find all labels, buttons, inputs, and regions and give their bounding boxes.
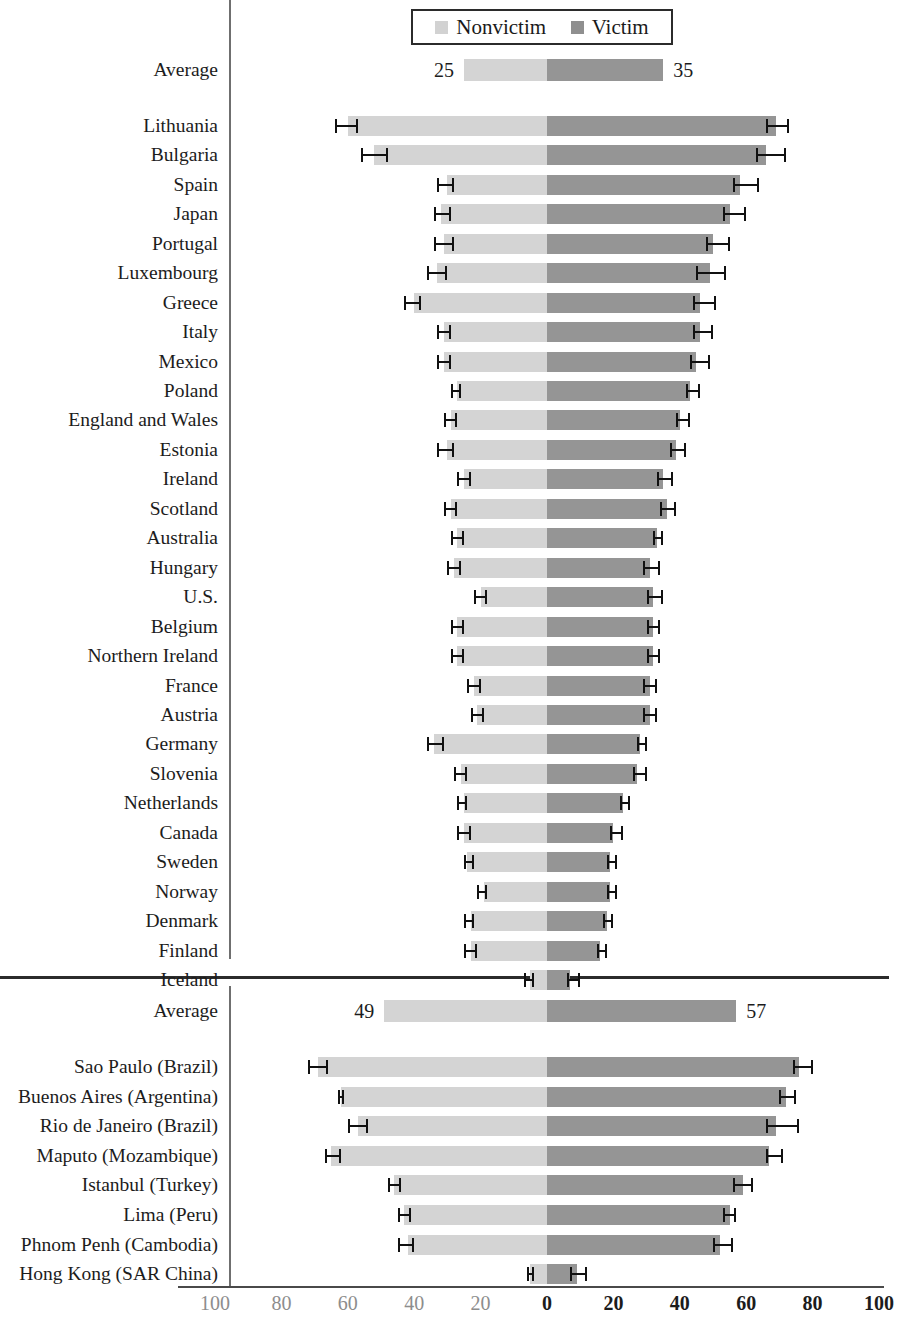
error-bar-victim	[647, 596, 664, 598]
error-bar-victim	[607, 861, 617, 863]
bar-nonvictim	[454, 558, 547, 578]
bar-victim	[547, 499, 667, 519]
error-bar-victim	[696, 272, 726, 274]
bar-victim	[547, 322, 700, 342]
error-bar-victim	[647, 655, 660, 657]
error-bar-victim	[643, 714, 656, 716]
average-value-nonvictim: 25	[406, 59, 454, 81]
bar-victim	[547, 852, 610, 872]
error-bar-nonvictim	[457, 478, 470, 480]
table-row: Spain	[0, 174, 889, 196]
bar-nonvictim	[358, 1116, 547, 1136]
x-axis-tick-0-5: 0	[517, 1292, 577, 1314]
error-bar-victim	[607, 891, 617, 893]
bar-nonvictim	[464, 59, 547, 81]
row-label: Germany	[0, 733, 218, 755]
error-bar-nonvictim	[464, 920, 474, 922]
legend-swatch-victim	[571, 21, 584, 34]
bar-victim	[547, 1087, 786, 1107]
average-row: Average2535	[0, 59, 889, 81]
bar-nonvictim	[451, 410, 547, 430]
error-bar-nonvictim	[457, 832, 470, 834]
table-row: Mexico	[0, 351, 889, 373]
chart-legend: Nonvictim Victim	[411, 9, 673, 45]
table-row: Lima (Peru)	[0, 1204, 889, 1226]
average-value-victim: 35	[673, 59, 721, 81]
legend-item-victim: Victim	[571, 17, 649, 38]
table-row: Phnom Penh (Cambodia)	[0, 1234, 889, 1256]
error-bar-nonvictim	[467, 685, 480, 687]
bar-victim	[547, 410, 680, 430]
table-row: Iceland	[0, 969, 889, 991]
row-label: Ireland	[0, 468, 218, 490]
bar-victim	[547, 646, 653, 666]
bar-nonvictim	[471, 941, 547, 961]
table-row: Denmark	[0, 910, 889, 932]
error-bar-victim	[637, 743, 647, 745]
bar-victim	[547, 705, 650, 725]
average-value-victim: 57	[746, 1000, 794, 1022]
error-bar-nonvictim	[464, 861, 474, 863]
legend-swatch-nonvictim	[435, 21, 448, 34]
error-bar-nonvictim	[451, 655, 464, 657]
table-row: Hong Kong (SAR China)	[0, 1263, 889, 1285]
bar-victim	[547, 911, 607, 931]
bar-nonvictim	[464, 469, 547, 489]
bar-nonvictim	[474, 676, 547, 696]
row-label: Rio de Janeiro (Brazil)	[0, 1115, 218, 1137]
error-bar-nonvictim	[464, 950, 477, 952]
table-row: Luxembourg	[0, 262, 889, 284]
table-row: Greece	[0, 292, 889, 314]
row-label: Lima (Peru)	[0, 1204, 218, 1226]
row-label: Mexico	[0, 351, 218, 373]
error-bar-nonvictim	[388, 1184, 401, 1186]
error-bar-victim	[793, 1066, 813, 1068]
bar-victim	[547, 1116, 776, 1136]
bar-victim	[547, 882, 610, 902]
table-row: Bulgaria	[0, 144, 889, 166]
bar-nonvictim	[348, 116, 547, 136]
error-bar-victim	[690, 361, 710, 363]
row-label: Spain	[0, 174, 218, 196]
error-bar-nonvictim	[524, 979, 534, 981]
error-bar-victim	[657, 478, 674, 480]
table-row: Estonia	[0, 439, 889, 461]
error-bar-victim	[733, 1184, 753, 1186]
bar-nonvictim	[457, 381, 547, 401]
error-bar-victim	[693, 331, 713, 333]
bar-nonvictim	[394, 1175, 547, 1195]
row-label: Portugal	[0, 233, 218, 255]
row-label: Denmark	[0, 910, 218, 932]
row-label: Hungary	[0, 557, 218, 579]
error-bar-nonvictim	[361, 154, 388, 156]
row-label: Australia	[0, 527, 218, 549]
row-label: Iceland	[0, 969, 218, 991]
error-bar-victim	[693, 302, 716, 304]
row-label: Belgium	[0, 616, 218, 638]
error-bar-nonvictim	[451, 626, 464, 628]
error-bar-victim	[766, 125, 789, 127]
bar-nonvictim	[341, 1087, 547, 1107]
bar-nonvictim	[441, 204, 547, 224]
error-bar-nonvictim	[437, 449, 454, 451]
error-bar-nonvictim	[404, 302, 421, 304]
bar-nonvictim	[318, 1057, 547, 1077]
error-bar-nonvictim	[437, 331, 450, 333]
x-axis-tick-60-8: 60	[716, 1292, 776, 1314]
bar-nonvictim	[444, 234, 547, 254]
row-label: U.S.	[0, 586, 218, 608]
bar-nonvictim	[471, 911, 547, 931]
legend-label-victim: Victim	[592, 17, 649, 38]
row-label: France	[0, 675, 218, 697]
error-bar-victim	[660, 508, 677, 510]
bar-victim	[547, 676, 650, 696]
bar-victim	[547, 234, 713, 254]
bar-victim	[547, 823, 613, 843]
error-bar-victim	[603, 920, 613, 922]
error-bar-nonvictim	[437, 184, 454, 186]
table-row: Japan	[0, 203, 889, 225]
bar-victim	[547, 1000, 736, 1022]
bar-victim	[547, 558, 650, 578]
error-bar-nonvictim	[457, 802, 467, 804]
error-bar-victim	[610, 832, 623, 834]
